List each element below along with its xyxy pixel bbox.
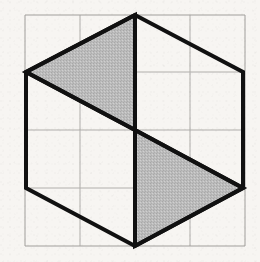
figure-container xyxy=(0,0,260,262)
hexagon-grid-figure xyxy=(0,0,260,262)
